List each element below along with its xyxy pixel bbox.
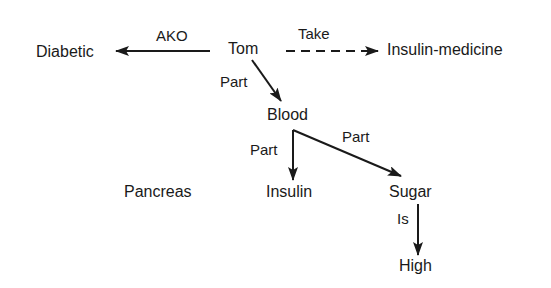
node-tom: Tom xyxy=(228,41,258,57)
edge-label-is: Is xyxy=(397,211,409,226)
node-sugar: Sugar xyxy=(389,184,432,200)
edge-tom-blood xyxy=(252,60,281,101)
node-diabetic: Diabetic xyxy=(36,44,94,60)
node-insulin: Insulin xyxy=(266,184,312,200)
semantic-network-diagram: Diabetic Tom Insulin-medicine Blood Panc… xyxy=(0,0,551,288)
node-blood: Blood xyxy=(267,107,308,123)
node-insulin-medicine: Insulin-medicine xyxy=(387,42,503,58)
edge-label-tom-blood-part: Part xyxy=(220,74,248,89)
edge-label-take: Take xyxy=(298,26,330,41)
node-pancreas: Pancreas xyxy=(124,184,192,200)
edge-label-ako: AKO xyxy=(156,28,188,43)
edge-label-blood-insulin-part: Part xyxy=(250,142,278,157)
edge-label-blood-sugar-part: Part xyxy=(342,129,370,144)
node-high: High xyxy=(399,258,432,274)
